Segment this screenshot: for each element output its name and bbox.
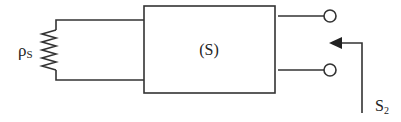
lower-terminal — [324, 64, 336, 76]
resistor-top-wire — [56, 20, 144, 30]
resistor-label: ρS — [18, 41, 33, 60]
upper-terminal — [324, 10, 336, 22]
resistor-bottom-wire — [56, 70, 144, 80]
system-block-label: (S) — [199, 41, 219, 59]
switch-label: S2 — [375, 97, 389, 116]
switch-lever — [340, 43, 362, 113]
resistor-zigzag — [42, 30, 56, 70]
circuit-diagram: ρS (S) S2 — [0, 0, 401, 122]
switch-arrowhead-icon — [329, 37, 342, 49]
